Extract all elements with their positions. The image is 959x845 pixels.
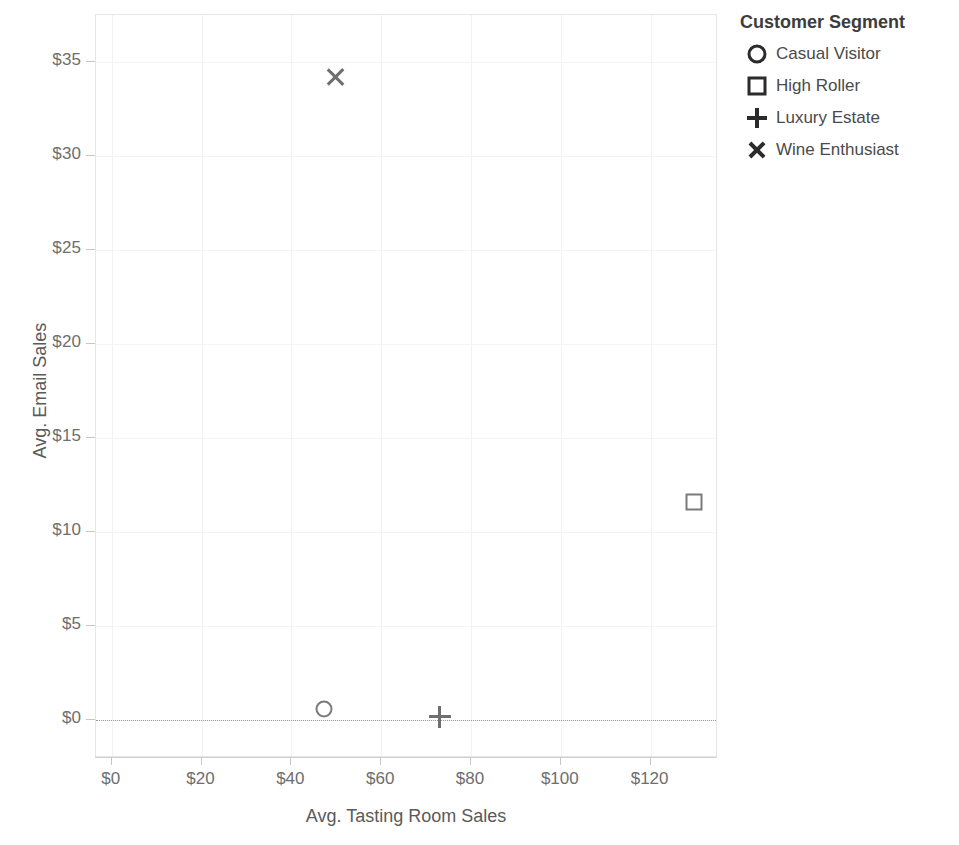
y-axis-tick-label: $25 <box>52 238 81 258</box>
gridline-vertical <box>651 15 652 756</box>
gridline-horizontal <box>96 626 716 627</box>
x-axis-title: Avg. Tasting Room Sales <box>95 806 717 827</box>
y-axis-title: Avg. Email Sales <box>30 291 51 491</box>
gridline-vertical <box>112 15 113 756</box>
x-axis-tick-label: $120 <box>631 769 669 789</box>
x-axis-tick-label: $80 <box>456 769 484 789</box>
legend-item-label: Wine Enthusiast <box>774 140 899 160</box>
legend-items: Casual VisitorHigh RollerLuxury EstateWi… <box>740 38 955 166</box>
gridline-horizontal <box>96 344 716 345</box>
zero-reference-line <box>96 720 716 721</box>
y-axis-tick-mark <box>86 437 95 438</box>
x-axis-tick-label: $40 <box>276 769 304 789</box>
y-axis-tick-mark <box>86 343 95 344</box>
gridline-vertical <box>471 15 472 756</box>
plus-marker-icon[interactable] <box>429 706 451 728</box>
cross-marker-icon <box>740 134 774 166</box>
x-axis-tick-mark <box>380 757 381 765</box>
square-marker-icon-shape <box>748 77 767 96</box>
legend-item[interactable]: High Roller <box>740 70 955 102</box>
legend-title: Customer Segment <box>740 12 955 33</box>
y-axis-tick-label: $15 <box>52 426 81 446</box>
x-axis-tick-label: $20 <box>186 769 214 789</box>
legend-item[interactable]: Casual Visitor <box>740 38 955 70</box>
x-axis-tick-label: $60 <box>366 769 394 789</box>
x-axis-tick-mark <box>201 757 202 765</box>
legend: Customer Segment Casual VisitorHigh Roll… <box>740 12 955 166</box>
gridline-vertical <box>202 15 203 756</box>
gridline-vertical <box>561 15 562 756</box>
legend-item-label: Casual Visitor <box>774 44 881 64</box>
circle-marker-icon-shape <box>748 45 767 64</box>
cross-marker-icon[interactable] <box>324 66 346 88</box>
y-axis-tick-mark <box>86 155 95 156</box>
x-axis-tick-mark <box>470 757 471 765</box>
x-axis-tick-mark <box>111 757 112 765</box>
y-axis-tick-label: $30 <box>52 144 81 164</box>
y-axis-tick-mark <box>86 531 95 532</box>
gridline-vertical <box>381 15 382 756</box>
gridline-vertical <box>291 15 292 756</box>
x-axis-tick-label: $0 <box>101 769 120 789</box>
y-axis-tick-mark <box>86 61 95 62</box>
gridline-horizontal <box>96 156 716 157</box>
square-marker-icon <box>740 70 774 102</box>
y-axis-tick-mark <box>86 719 95 720</box>
legend-item[interactable]: Luxury Estate <box>740 102 955 134</box>
legend-item-label: Luxury Estate <box>774 108 880 128</box>
x-axis-tick-mark <box>650 757 651 765</box>
y-axis-tick-label: $0 <box>62 708 81 728</box>
x-axis-tick-mark <box>290 757 291 765</box>
legend-item[interactable]: Wine Enthusiast <box>740 134 955 166</box>
x-axis-line <box>95 757 717 758</box>
x-axis-tick-label: $100 <box>541 769 579 789</box>
gridline-horizontal <box>96 532 716 533</box>
gridline-horizontal <box>96 62 716 63</box>
y-axis-tick-label: $20 <box>52 332 81 352</box>
circle-marker-icon <box>740 38 774 70</box>
plus-marker-icon <box>740 102 774 134</box>
y-axis-tick-label: $5 <box>62 614 81 634</box>
legend-item-label: High Roller <box>774 76 860 96</box>
plot-area <box>95 14 717 757</box>
square-marker-icon[interactable] <box>685 494 702 511</box>
y-axis-tick-label: $35 <box>52 50 81 70</box>
y-axis-tick-mark <box>86 625 95 626</box>
x-axis-tick-mark <box>560 757 561 765</box>
y-axis-tick-mark <box>86 249 95 250</box>
circle-marker-icon[interactable] <box>316 701 333 718</box>
gridline-horizontal <box>96 250 716 251</box>
cross-marker-icon-shape <box>746 139 768 161</box>
plus-marker-icon-shape <box>746 107 768 129</box>
y-axis-tick-label: $10 <box>52 520 81 540</box>
gridline-horizontal <box>96 438 716 439</box>
scatter-plot-visualization: $0$5$10$15$20$25$30$35 $0$20$40$60$80$10… <box>0 0 959 845</box>
